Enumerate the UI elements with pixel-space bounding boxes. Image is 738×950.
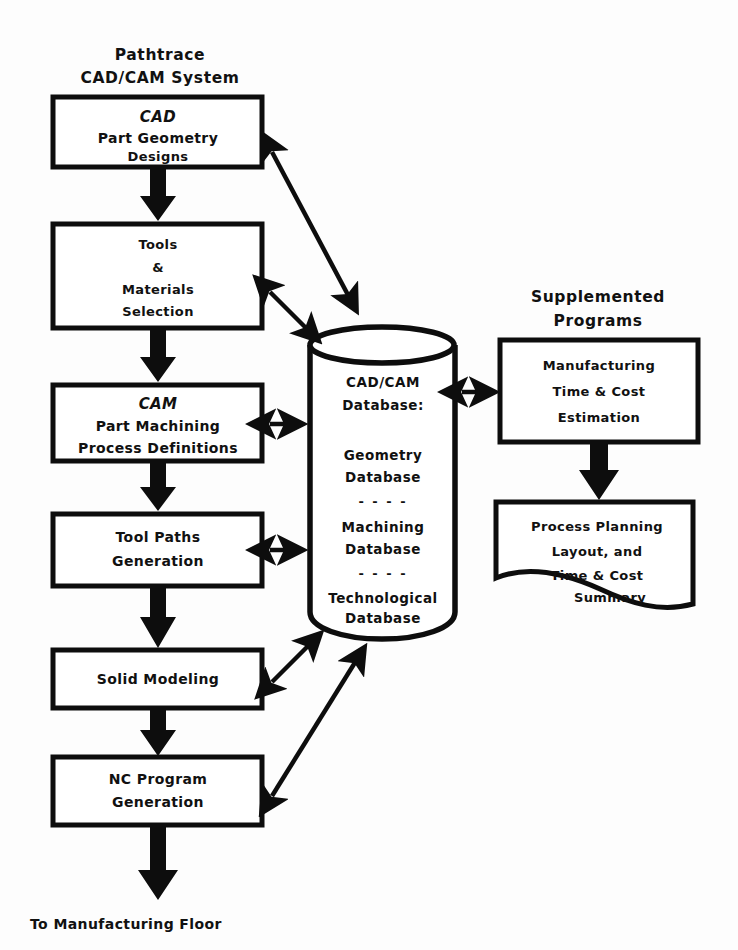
database-entry-geometry-line2: Database [345,469,421,485]
box-mfg-estimation-line1: Manufacturing [543,358,655,373]
flow-arrow-nc-to-floor [138,825,178,900]
box-cam-line2: Part Machining [96,418,221,434]
right-column-heading-line1: Supplemented [531,288,665,306]
box-toolpaths-line2: Generation [112,553,204,569]
box-cad-line3: Designs [128,149,189,164]
box-mfg-estimation-line2: Time & Cost [553,384,646,399]
flow-arrow-tools-to-cam [140,328,176,382]
box-tools-line2: & [152,260,164,275]
right-column-heading-line2: Programs [553,312,642,330]
database-entry-technological-line2: Database [345,610,421,626]
box-process-planning-line1: Process Planning [531,519,663,534]
left-column-heading-line2: CAD/CAM System [80,69,239,87]
database-separator-1: - - - - [358,494,407,509]
database-entry-machining-line1: Machining [342,519,425,535]
link-tools-to-database[interactable] [270,292,318,340]
flow-arrow-toolpaths-to-solid [140,586,176,648]
box-cad-line2: Part Geometry [98,130,218,146]
database-entry-technological-line1: Technological [328,590,438,606]
flowchart-diagram: Pathtrace CAD/CAM System CAD Part Geomet… [0,0,738,950]
box-process-planning-line4: Summary [574,590,646,605]
box-cad-line1: CAD [140,108,176,126]
footer-to-manufacturing-floor: To Manufacturing Floor [30,916,222,932]
database-entry-machining-line2: Database [345,541,421,557]
box-toolpaths-line1: Tool Paths [116,529,201,545]
box-solid-modeling-line1: Solid Modeling [97,671,219,687]
box-toolpaths[interactable] [53,514,262,586]
box-nc-program-line1: NC Program [109,771,208,787]
box-nc-program[interactable] [53,757,262,825]
database-title-line2: Database: [342,397,424,413]
box-tools-line1: Tools [138,237,177,252]
box-tools-line3: Materials [122,282,194,297]
box-tools-line4: Selection [122,304,194,319]
box-cam-line3: Process Definitions [78,440,238,456]
flow-arrow-cam-to-toolpaths [140,461,176,511]
database-separator-2: - - - - [358,566,407,581]
box-nc-program-line2: Generation [112,794,204,810]
database-title-line1: CAD/CAM [346,374,420,390]
flow-arrow-cad-to-tools [140,167,176,221]
flow-arrow-solid-to-nc [140,708,176,756]
box-process-planning-line2: Layout, and [552,544,643,559]
box-process-planning-line3: Time & Cost [551,568,644,583]
box-mfg-estimation-line3: Estimation [558,410,640,425]
database-entry-geometry-line1: Geometry [344,447,423,463]
box-cam-line1: CAM [139,395,178,413]
left-column-heading-line1: Pathtrace [115,46,205,64]
database-cylinder-top [310,327,454,363]
diagram-canvas: Pathtrace CAD/CAM System CAD Part Geomet… [0,0,738,950]
link-cad-to-database[interactable] [272,152,356,310]
flow-arrow-estimation-to-planning [579,442,619,500]
link-solid-to-database[interactable] [272,634,320,682]
